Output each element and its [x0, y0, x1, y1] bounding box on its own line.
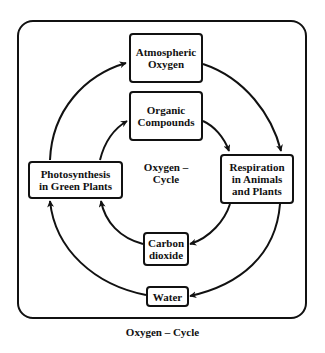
- arrow-respiration-to-water: [190, 204, 280, 296]
- node-organic-compounds: Organic Compounds: [129, 91, 203, 141]
- arrow-respiration-to-carbon-dioxide: [190, 204, 230, 244]
- node-water: Water: [146, 286, 189, 307]
- node-photosynthesis: Photosynthesis in Green Plants: [28, 161, 123, 199]
- node-carbon-dioxide: Carbon dioxide: [143, 232, 189, 266]
- arrow-atmospheric-oxygen-to-respiration: [203, 64, 281, 151]
- node-label: Photosynthesis in Green Plants: [39, 168, 112, 192]
- arrow-photosynthesis-to-organic-compounds: [100, 121, 127, 160]
- node-label: Respiration in Animals and Plants: [230, 161, 285, 197]
- arrow-photosynthesis-to-atmospheric-oxygen: [50, 63, 126, 160]
- diagram-caption: Oxygen – Cycle: [0, 326, 325, 338]
- node-label: Carbon dioxide: [148, 237, 184, 261]
- arrow-organic-compounds-to-respiration: [203, 121, 229, 151]
- node-label: Organic Compounds: [138, 104, 195, 128]
- node-label: Atmospheric Oxygen: [136, 46, 197, 70]
- center-label: Oxygen – Cycle: [135, 161, 197, 185]
- node-label: Water: [153, 291, 182, 303]
- arrow-carbon-dioxide-to-photosynthesis: [101, 201, 143, 244]
- node-respiration: Respiration in Animals and Plants: [220, 154, 294, 204]
- node-atmospheric-oxygen: Atmospheric Oxygen: [129, 33, 203, 83]
- arrow-water-to-photosynthesis: [50, 201, 146, 295]
